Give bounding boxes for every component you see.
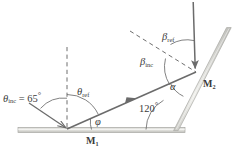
label-theta-ref: θref	[77, 87, 89, 98]
label-theta-inc: θinc = 65°	[3, 91, 41, 105]
label-beta-ref: βref	[162, 32, 174, 43]
physics-diagram-figure: θinc = 65° θref φ 120° α βinc βref M1 M2	[0, 0, 239, 157]
label-phi: φ	[95, 117, 101, 128]
label-mirror-m2: M2	[203, 79, 216, 90]
incident-ray-m1	[29, 103, 65, 128]
label-mirror-m1: M1	[86, 136, 99, 147]
arc-beta-inc	[165, 59, 170, 85]
label-angle-120: 120°	[139, 101, 158, 114]
arc-theta-inc	[41, 98, 68, 108]
reflected-ray-m2	[193, 2, 195, 69]
ray-direction-arrowhead	[125, 97, 137, 103]
mirror-m1	[18, 128, 185, 133]
label-alpha: α	[170, 82, 176, 93]
label-beta-inc: βinc	[140, 57, 153, 68]
